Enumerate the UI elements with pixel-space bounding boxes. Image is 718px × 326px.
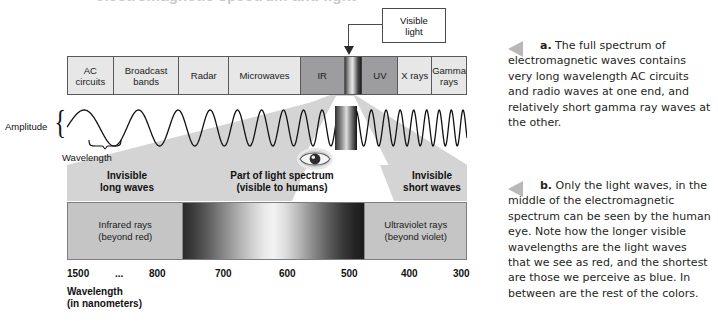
wavelength-scale-row: 1500 ... 800 700 600 500 400 300 — [67, 268, 467, 284]
scale-tick: 300 — [453, 268, 470, 279]
band-visible-light — [345, 57, 363, 94]
band-label: IR — [317, 70, 327, 81]
caption-a-text: The full spectrum of electromagnetic wav… — [508, 39, 710, 129]
band-ultraviolet: UV — [362, 57, 398, 94]
sine-wave-row — [67, 104, 467, 152]
scale-tick: 600 — [279, 268, 296, 279]
amplitude-label: Amplitude — [5, 121, 47, 132]
amplitude-brace-icon: { — [54, 105, 65, 139]
band-label: Radar — [191, 70, 217, 81]
scale-tick: 500 — [341, 268, 358, 279]
band-label: X rays — [401, 70, 428, 81]
band-x-rays: X rays — [398, 57, 432, 94]
callout-leader-line — [348, 24, 383, 25]
figure-page: electromagnetic spectrum and light ACcir… — [0, 0, 718, 326]
visible-light-wave-highlight — [335, 106, 357, 150]
section-label-invisible-long-waves: Invisiblelong waves — [72, 170, 182, 193]
band-gamma-rays: Gammarays — [432, 57, 466, 94]
caption-b-text: Only the light waves, in the middle of t… — [508, 179, 711, 300]
electromagnetic-band-strip: ACcircuits Broadcastbands Radar Microwav… — [67, 56, 467, 95]
scale-tick: ... — [115, 268, 123, 279]
band-infrared: IR — [301, 57, 345, 94]
band-broadcast-bands: Broadcastbands — [114, 57, 180, 94]
band-label: Broadcastbands — [125, 65, 168, 87]
band-label: Microwaves — [239, 70, 289, 81]
band-label: Gammarays — [432, 65, 466, 87]
scale-tick: 400 — [401, 268, 418, 279]
scale-tick: 1500 — [67, 268, 89, 279]
callout-arrow-icon — [344, 46, 354, 55]
section-label-visible-spectrum: Part of light spectrum(visible to humans… — [192, 170, 372, 193]
band-microwaves: Microwaves — [229, 57, 301, 94]
caption-a: a. The full spectrum of electromagnetic … — [508, 38, 712, 130]
spectrum-zone-visible — [183, 203, 364, 259]
caption-triangle-icon — [508, 41, 523, 57]
caption-a-marker: a. — [540, 39, 552, 52]
wavelength-brace-icon — [88, 140, 122, 150]
wavelength-axis-caption: Wavelength(in nanometers) — [67, 286, 142, 310]
wavelength-label: Wavelength — [62, 152, 112, 163]
scale-tick: 800 — [149, 268, 166, 279]
visible-light-callout-label: Visiblelight — [400, 15, 428, 37]
caption-b-marker: b. — [540, 179, 552, 192]
spectrum-zone-ultraviolet: Ultraviolet rays(beyond violet) — [364, 203, 465, 259]
band-label: UV — [373, 70, 386, 81]
spectrum-zone-label: Infrared rays(beyond red) — [98, 219, 152, 243]
electromagnetic-spectrum-figure: ACcircuits Broadcastbands Radar Microwav… — [0, 0, 490, 326]
visible-light-callout: Visiblelight — [382, 8, 446, 43]
section-label-invisible-short-waves: Invisibleshort waves — [382, 170, 482, 193]
spectrum-zone-label: Ultraviolet rays(beyond violet) — [384, 219, 447, 243]
band-ac-circuits: ACcircuits — [68, 57, 114, 94]
scale-tick: 700 — [215, 268, 232, 279]
sine-wave-icon — [67, 104, 467, 152]
caption-b: b. Only the light waves, in the middle o… — [508, 178, 712, 301]
callout-stem-line — [348, 24, 349, 48]
eye-icon — [296, 146, 334, 172]
visible-spectrum-bar: Infrared rays(beyond red) Ultraviolet ra… — [67, 202, 467, 260]
band-radar: Radar — [179, 57, 229, 94]
spectrum-zone-infrared: Infrared rays(beyond red) — [68, 203, 183, 259]
band-label: ACcircuits — [76, 65, 106, 87]
caption-triangle-icon — [508, 181, 523, 197]
